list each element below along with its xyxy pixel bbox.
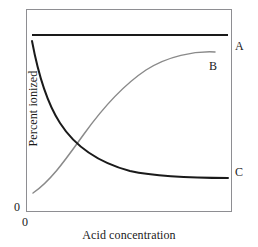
x-axis-origin-label: 0: [22, 216, 28, 228]
y-axis-origin-label: 0: [14, 201, 20, 213]
y-axis-title: Percent ionized: [26, 34, 41, 184]
plot-area-frame: [26, 9, 232, 212]
series-label-a: A: [235, 40, 244, 52]
series-label-c: C: [235, 166, 243, 178]
chart-figure: Percent ionized Acid concentration 0 0 A…: [0, 0, 258, 247]
series-label-b: B: [209, 60, 217, 72]
x-axis-title: Acid concentration: [26, 228, 232, 243]
